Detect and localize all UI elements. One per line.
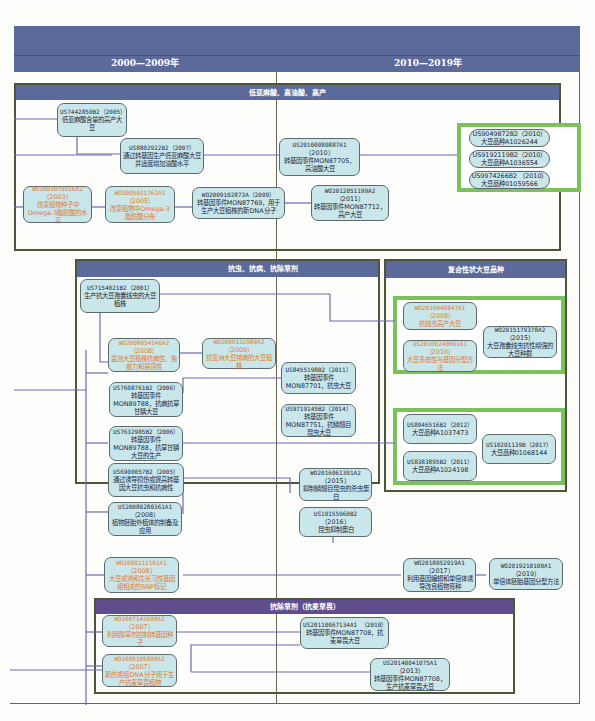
patent-node[interactable]: US10201139B（2017） 大豆品种01068144 xyxy=(482,434,556,464)
patent-node[interactable]: WO2003079916A2 （2003） 改变植物种子中Omega-3脂肪酸的… xyxy=(23,186,92,223)
patent-node[interactable]: US20140041075A1 （2013） 转基因事件MON87708，生产抗… xyxy=(370,658,450,691)
patent-node[interactable]: US7632985B2（2006） 转基因事件MON89788，抗草甘膦大豆的生… xyxy=(109,426,183,461)
patent-node[interactable]: WO2010048847A1 （2008） 抗线虫高产大豆 xyxy=(403,302,477,330)
patent-node[interactable]: WO2016061391A2 （2015） 抑制鳞翅目昆虫的杀虫蛋白 xyxy=(299,468,372,501)
patent-node[interactable]: WO2007143690A2 （2007） 利用除草剂控制转基因种子 xyxy=(102,615,177,647)
patent-node[interactable]: WO2005021761A1 （2005） 改变植物中Omega-3脂肪酸分布 xyxy=(105,186,175,223)
patent-node[interactable]: US20100240061A1 （2010） 大豆多态性与基因分型方法 xyxy=(403,340,477,372)
patent-node[interactable]: US8455198B2（2011） 转基因事件MON87701，抗虫大豆 xyxy=(281,362,356,394)
patent-node[interactable]: WO2008054546A2 （2008） 监测大豆植株抗病性、免疫力和易感性 xyxy=(108,338,180,372)
patent-node[interactable]: WO2019210100A1 （2019） 单倍体胚胎基因分型方法 xyxy=(489,558,563,590)
patent-node[interactable]: US7154021B2（2001） 生产抗大豆孢囊线虫的大豆植株 xyxy=(80,279,160,313)
patent-node[interactable]: WO2015179378A2 （2015） 大豆孢囊线虫抗性增强的大豆种群 xyxy=(483,326,557,358)
patent-node[interactable]: US20100080887A1 （2010） 转基因事件MON87705，高油酸… xyxy=(279,138,360,176)
variety-pill[interactable]: US9049872B2（2010）大豆品种A1026244 xyxy=(469,129,550,147)
patent-node[interactable]: US8946516B2（2012） 大豆品种A1037473 xyxy=(403,414,477,444)
patent-node[interactable]: US7608761B2（2006） 转基因事件MON89788，抗病抗草甘膦大豆 xyxy=(109,382,183,417)
patent-node[interactable]: US7442850B2（2005） 低亚麻酸含量的高产大豆 xyxy=(57,103,127,137)
patent-node[interactable]: WO2012051199A2 （2011） 转基因事件MON87712，高产大豆 xyxy=(311,185,389,221)
variety-pill[interactable]: US9974266B2 （2010）大豆品种01059566 xyxy=(469,171,550,189)
patent-node[interactable]: US9719145B2（2014） 转基因事件MON87751，抗鳞翅目昆虫大豆 xyxy=(281,404,356,437)
patent-node[interactable]: WO2008105890A2 （2007） 新的重组DNA分子用于生产抗麦草畏植… xyxy=(102,654,177,687)
patent-node[interactable]: US10155960B2 （2016） 昆虫抑制蛋白 xyxy=(299,507,372,537)
patent-node[interactable]: US6900057B2（2005） 通过诱导损伤或提高转基因大豆抗虫和抗病性 xyxy=(108,463,184,497)
variety-pill[interactable]: US9192119B2（2010）大豆品种A1036554 xyxy=(469,150,550,168)
patent-node[interactable]: WO2008112191A1 （2008） 大豆成熟和生长习性基因组相关的SNP… xyxy=(104,557,179,593)
patent-node[interactable]: WO2009102873A（2009） 转基因事件MON87769，用于生产大豆… xyxy=(192,187,285,219)
patent-node[interactable]: WO2018052919A1 （2017） 利用基因编辑和单倍体诱导改良植物育种 xyxy=(403,558,476,592)
patent-node[interactable]: US20080280361A1 （2008） 植物胚胎外植体的制备及应用 xyxy=(108,502,182,536)
patent-node[interactable]: WO2009132089A2 （2009） 抗亚洲大豆锈病的大豆植株 xyxy=(202,338,276,369)
patent-node[interactable]: US8383895B2（2011） 大豆品种A1024198 xyxy=(403,451,477,481)
patent-node[interactable]: US8802922B2（2007） 通过转基因生产低亚麻酸大豆并适度增加油酸水平 xyxy=(120,138,204,174)
patent-node[interactable]: US20110067134A1 （2010） 转基因事件MON87708，抗麦草… xyxy=(300,617,389,649)
